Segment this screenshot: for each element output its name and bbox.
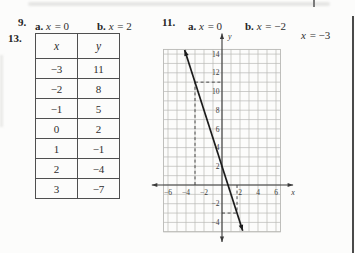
svg-text:4: 4 — [256, 188, 260, 197]
table-row: 3−7 — [36, 179, 120, 199]
table-row: −28 — [36, 79, 120, 99]
table-cell: 11 — [78, 59, 120, 79]
table-cell: −1 — [36, 99, 78, 119]
table-row: 1−1 — [36, 139, 120, 159]
svg-text:6: 6 — [216, 125, 220, 134]
table-row: −15 — [36, 99, 120, 119]
svg-text:8: 8 — [216, 106, 220, 115]
table-row: 2−4 — [36, 159, 120, 179]
svg-text:y: y — [227, 32, 232, 41]
graph: −6−4−22461412108642−2−4yx — [148, 25, 300, 248]
svg-text:−2: −2 — [200, 188, 208, 197]
part-label: a. — [35, 20, 43, 32]
svg-text:−4: −4 — [212, 218, 220, 227]
problem11-extra-answer: x = −3 — [301, 29, 330, 41]
table-cell: −3 — [36, 59, 78, 79]
column-rule — [352, 16, 354, 253]
part-label: b. — [97, 20, 106, 32]
table-header-row: x y — [36, 34, 120, 59]
answer-math: x = 0 — [43, 20, 69, 32]
table-cell: 2 — [36, 159, 78, 179]
table-header-y: y — [78, 34, 120, 59]
table-cell: −2 — [36, 79, 78, 99]
table-cell: 0 — [36, 119, 78, 139]
table-cell: 5 — [78, 99, 120, 119]
table-cell: −4 — [78, 159, 120, 179]
svg-text:10: 10 — [212, 87, 220, 96]
problem9-part-a: a. x = 0 — [35, 16, 69, 34]
table-cell: −1 — [78, 139, 120, 159]
svg-text:12: 12 — [212, 68, 220, 77]
textbook-answer-page: { "page": { "problem9": { "number": "9."… — [0, 0, 355, 253]
table-header-x: x — [36, 34, 78, 59]
svg-text:2: 2 — [216, 162, 220, 171]
table-cell: 3 — [36, 179, 78, 199]
answer-table-body: −311−28−15021−12−43−7 — [36, 59, 120, 199]
column-rule-top-tick — [313, 0, 315, 7]
svg-text:−2: −2 — [212, 199, 220, 208]
table-cell: 1 — [36, 139, 78, 159]
svg-text:−4: −4 — [182, 188, 190, 197]
svg-text:x: x — [290, 188, 295, 197]
svg-text:2: 2 — [238, 188, 242, 197]
table-cell: 8 — [78, 79, 120, 99]
table-cell: 2 — [78, 119, 120, 139]
table-row: −311 — [36, 59, 120, 79]
svg-text:−6: −6 — [164, 188, 172, 197]
svg-text:14: 14 — [212, 50, 220, 59]
table-cell: −7 — [78, 179, 120, 199]
xy-table: x y −311−28−15021−12−43−7 — [35, 33, 120, 199]
scan-smudge-top — [28, 2, 330, 6]
problem9-number: 9. — [18, 16, 26, 28]
table-row: 02 — [36, 119, 120, 139]
svg-text:6: 6 — [274, 188, 278, 197]
problem13-number: 13. — [8, 32, 22, 44]
scan-smear-left — [0, 55, 3, 127]
problem9-part-b: b. x = 2 — [97, 16, 132, 34]
answer-math: x = 2 — [106, 20, 132, 32]
